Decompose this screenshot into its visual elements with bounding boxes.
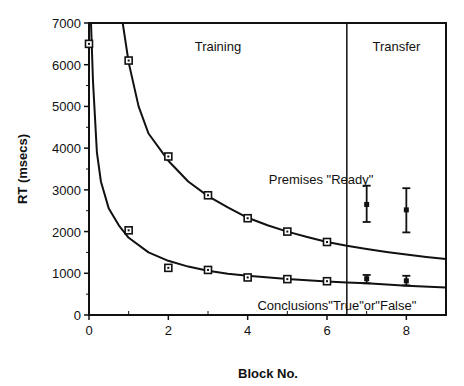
square-marker-center — [247, 217, 249, 219]
square-marker-center — [286, 278, 288, 280]
plot-frame — [89, 23, 446, 315]
fitted-curves — [91, 23, 446, 288]
square-marker-center — [326, 280, 328, 282]
mean-marker — [364, 276, 369, 281]
square-marker-center — [88, 43, 90, 45]
square-marker-center — [128, 60, 130, 62]
x-tick-label: 6 — [323, 323, 330, 338]
region-label: Transfer — [372, 39, 421, 54]
y-tick-label: 2000 — [52, 225, 81, 240]
y-tick-label: 3000 — [52, 183, 81, 198]
annotation-label: Conclusions"True"or"False" — [257, 298, 416, 313]
y-tick-label: 6000 — [52, 58, 81, 73]
annotations: TrainingTransferPremises "Ready"Conclusi… — [195, 39, 421, 313]
square-marker-center — [128, 229, 130, 231]
y-tick-label: 7000 — [52, 16, 81, 31]
square-marker-center — [247, 276, 249, 278]
square-marker-center — [167, 155, 169, 157]
y-tick-label: 5000 — [52, 99, 81, 114]
plot-axes: 0100020003000400050006000700002468 — [52, 16, 446, 338]
fitted-curve — [91, 23, 446, 288]
mean-marker — [404, 207, 409, 212]
mean-marker — [404, 278, 409, 283]
chart: 0100020003000400050006000700002468 Block… — [0, 0, 464, 386]
y-tick-label: 0 — [74, 308, 81, 323]
x-tick-label: 8 — [403, 323, 410, 338]
y-tick-label: 4000 — [52, 141, 81, 156]
x-tick-label: 0 — [85, 323, 92, 338]
x-axis-title: Block No. — [238, 366, 298, 381]
y-axis-title: RT (msecs) — [15, 134, 30, 204]
mean-marker — [364, 202, 369, 207]
x-tick-label: 4 — [244, 323, 251, 338]
square-marker-center — [286, 231, 288, 233]
y-tick-label: 1000 — [52, 266, 81, 281]
square-marker-center — [167, 267, 169, 269]
square-marker-center — [326, 241, 328, 243]
square-marker-center — [207, 269, 209, 271]
annotation-label: Premises "Ready" — [269, 172, 374, 187]
x-tick-label: 2 — [165, 323, 172, 338]
square-marker-center — [207, 194, 209, 196]
fitted-curve — [123, 23, 446, 259]
region-label: Training — [195, 39, 241, 54]
